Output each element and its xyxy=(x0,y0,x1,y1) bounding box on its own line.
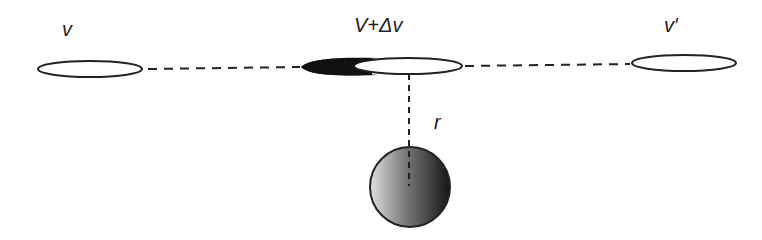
label-v-plus-delta-v: V+Δv xyxy=(354,14,402,37)
label-r: r xyxy=(434,111,441,134)
label-v-prime: v′ xyxy=(664,14,678,37)
trajectory-dash-left xyxy=(148,67,300,69)
trajectory-dash-right xyxy=(465,64,630,66)
spacecraft-final-ellipse xyxy=(632,55,736,71)
spacecraft-initial-ellipse xyxy=(38,61,142,77)
label-v: v xyxy=(62,18,72,41)
spacecraft-flyby-ellipse xyxy=(301,58,462,76)
planet-sphere xyxy=(370,147,450,227)
